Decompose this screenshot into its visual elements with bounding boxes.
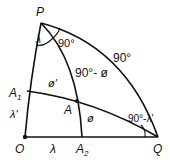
point-O <box>23 135 27 139</box>
label-A2: A2 <box>75 142 89 158</box>
label-phi: ø <box>87 112 94 124</box>
label-arc-PQ: 90° <box>113 51 131 65</box>
label-lambda-OA2: λ <box>49 142 56 156</box>
label-Q: Q <box>153 142 162 156</box>
label-A1: A1 <box>8 86 21 102</box>
label-lambda-prime: λ' <box>9 108 18 120</box>
spherical-geometry-diagram: P λ 90° 90° 90°- ø ø' A1 λ' A ø 90°-λ' O… <box>0 0 170 167</box>
label-arc-PA: 90°- ø <box>75 66 108 80</box>
label-lambda-at-P: λ <box>35 34 41 45</box>
label-O: O <box>15 142 24 156</box>
label-P: P <box>36 5 44 19</box>
label-A: A <box>63 103 72 117</box>
label-angle-Q: 90°-λ' <box>128 113 153 124</box>
point-A <box>75 99 79 103</box>
angle-arc-at-Q <box>141 125 145 137</box>
label-90-at-P: 90° <box>58 37 75 49</box>
label-phi-prime: ø' <box>48 77 58 89</box>
